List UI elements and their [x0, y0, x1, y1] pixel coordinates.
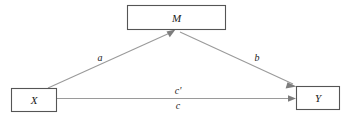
- edge-a-arrowhead: [167, 30, 176, 38]
- node-x-label: X: [30, 94, 39, 106]
- edge-c-arrowhead: [288, 95, 296, 102]
- node-x: X: [12, 89, 57, 112]
- edge-a-label: a: [98, 52, 103, 63]
- edge-c-prime-label: c': [175, 85, 182, 96]
- edge-a-line: [48, 32, 172, 88]
- edge-c-label: c: [176, 100, 181, 111]
- node-y: Y: [297, 87, 340, 110]
- edge-b: [180, 32, 297, 88]
- mediation-path-diagram: M X Y a b c' c: [0, 0, 350, 124]
- edge-b-label: b: [255, 52, 260, 63]
- node-m-label: M: [171, 12, 182, 24]
- edge-a: [48, 30, 176, 89]
- node-m: M: [128, 6, 226, 30]
- edge-b-line: [180, 32, 293, 84]
